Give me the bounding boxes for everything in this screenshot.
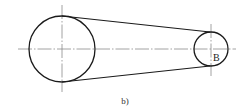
small-pulley-label: B [213, 52, 220, 63]
belt-drive-diagram: B b) [0, 0, 248, 112]
figure-caption: b) [121, 96, 129, 106]
